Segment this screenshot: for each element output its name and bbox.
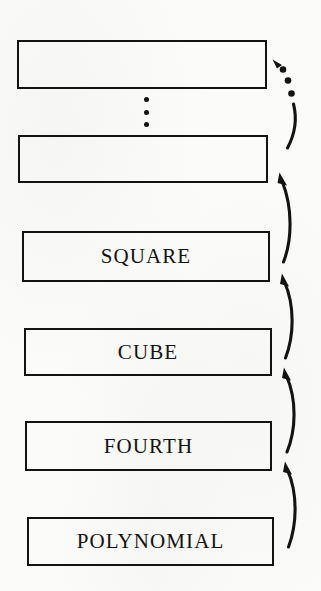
ellipsis-dot <box>144 97 149 102</box>
node-label-fourth: FOURTH <box>104 436 193 457</box>
connector-dot <box>285 77 292 84</box>
connector-dot <box>288 90 295 97</box>
connector-polynomial-to-fourth-icon <box>283 462 295 548</box>
vertical-ellipsis-icon <box>144 97 149 127</box>
node-box-top-unlabeled[interactable] <box>17 40 267 89</box>
connector-fourth-to-cube-icon <box>282 368 294 453</box>
node-box-second-unlabeled[interactable] <box>18 135 268 183</box>
ellipsis-dot <box>144 122 149 127</box>
connector-second-to-top-dotted-icon <box>273 60 296 149</box>
connector-square-to-second-icon <box>278 173 291 263</box>
connector-dot <box>280 66 287 73</box>
node-label-square: SQUARE <box>101 246 192 267</box>
node-box-square[interactable]: SQUARE <box>22 231 270 282</box>
diagram-canvas: SQUARE CUBE FOURTH POLYNOMIAL <box>0 0 321 591</box>
connector-arrowhead <box>273 60 283 69</box>
node-box-cube[interactable]: CUBE <box>24 328 272 376</box>
node-box-polynomial[interactable]: POLYNOMIAL <box>27 517 274 566</box>
node-label-polynomial: POLYNOMIAL <box>77 531 225 552</box>
node-label-cube: CUBE <box>118 342 178 363</box>
ellipsis-dot <box>144 110 149 115</box>
connector-cube-to-square-icon <box>280 274 292 359</box>
node-box-fourth[interactable]: FOURTH <box>25 421 272 471</box>
